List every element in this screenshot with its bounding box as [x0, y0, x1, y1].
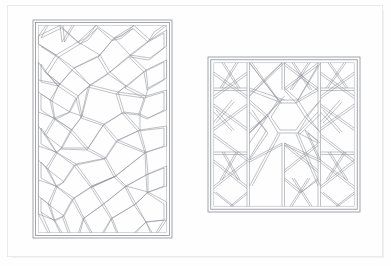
panel-right-field-frame — [214, 63, 354, 206]
geometric-panels-illustration — [0, 0, 391, 266]
central-hexagon — [268, 100, 308, 133]
panel-right-group — [208, 57, 360, 212]
panel-left-lattice — [38, 25, 166, 232]
panel-left-group — [33, 20, 172, 238]
panel-right-lattice — [214, 63, 354, 206]
panel-right-outer-frame — [208, 57, 360, 212]
plate-page — [0, 0, 391, 266]
